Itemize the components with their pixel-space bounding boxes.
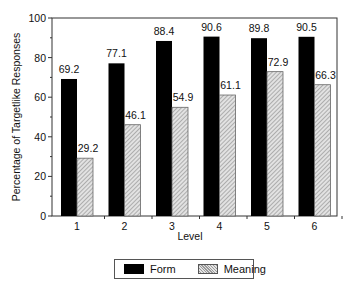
x-tick-label: 6 xyxy=(312,220,318,232)
legend: Form Meaning xyxy=(114,259,254,279)
meaning-bar xyxy=(77,158,93,216)
meaning-swatch-icon xyxy=(198,264,218,274)
data-label: 77.1 xyxy=(106,47,127,59)
x-tick-label: 3 xyxy=(169,220,175,232)
data-labels: 69.229.277.146.188.454.990.661.189.872.9… xyxy=(59,21,336,155)
data-label: 90.6 xyxy=(201,21,222,33)
x-tick-label: 4 xyxy=(217,220,223,232)
y-tick-label: 60 xyxy=(34,91,46,103)
x-axis-label: Level xyxy=(177,230,202,242)
bar-chart: 020406080100123456 69.229.277.146.188.45… xyxy=(0,0,351,294)
y-tick-label: 40 xyxy=(34,131,46,143)
form-bar xyxy=(204,37,220,216)
form-bar xyxy=(61,79,77,216)
y-axis-label: Percentage of Targetlike Responses xyxy=(10,33,22,202)
meaning-bar xyxy=(125,125,141,216)
meaning-bar xyxy=(220,95,236,216)
x-tick-label: 5 xyxy=(264,220,270,232)
form-bar xyxy=(299,37,315,216)
form-swatch-icon xyxy=(124,264,144,274)
legend-label-form: Form xyxy=(150,263,176,275)
y-tick-label: 0 xyxy=(40,210,46,222)
meaning-bar xyxy=(172,107,188,216)
data-label: 46.1 xyxy=(125,109,146,121)
data-label: 54.9 xyxy=(173,91,194,103)
plot-frame xyxy=(52,18,337,216)
form-bar xyxy=(109,63,125,216)
bars xyxy=(61,37,331,216)
meaning-bar xyxy=(267,72,283,216)
legend-item-meaning: Meaning xyxy=(198,263,266,275)
y-tick-label: 80 xyxy=(34,52,46,64)
legend-label-meaning: Meaning xyxy=(224,263,266,275)
data-label: 29.2 xyxy=(78,142,99,154)
x-tick-label: 1 xyxy=(74,220,80,232)
data-label: 66.3 xyxy=(315,69,336,81)
data-label: 69.2 xyxy=(59,63,80,75)
y-tick-label: 20 xyxy=(34,170,46,182)
form-bar xyxy=(156,41,172,216)
y-tick-label: 100 xyxy=(28,12,46,24)
data-label: 89.8 xyxy=(249,22,270,34)
legend-item-form: Form xyxy=(124,263,176,275)
data-label: 72.9 xyxy=(268,56,289,68)
x-tick-label: 2 xyxy=(122,220,128,232)
form-bar xyxy=(251,38,267,216)
data-label: 61.1 xyxy=(220,79,241,91)
data-label: 90.5 xyxy=(296,21,317,33)
data-label: 88.4 xyxy=(154,25,175,37)
meaning-bar xyxy=(315,85,331,216)
